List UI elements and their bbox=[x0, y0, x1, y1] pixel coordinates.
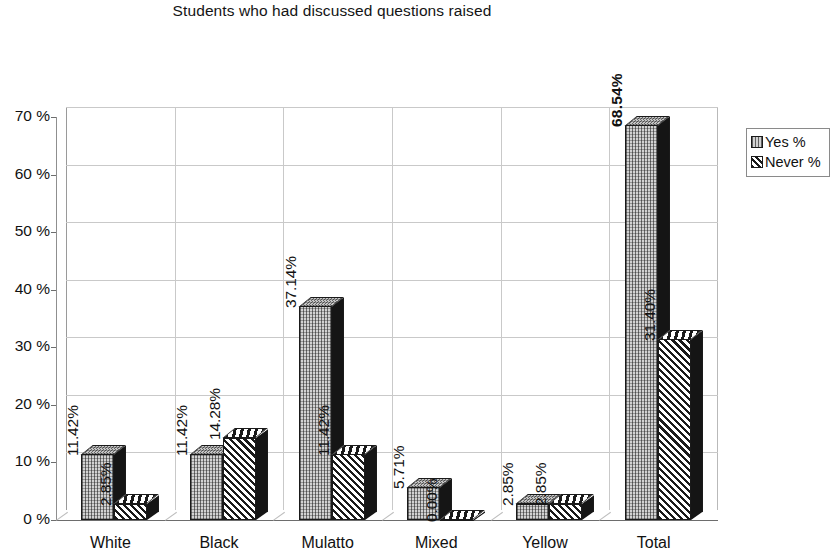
bar-value-label: 11.42% bbox=[64, 405, 82, 456]
gridline-group-separator bbox=[283, 107, 284, 510]
y-axis-tick-mark bbox=[51, 232, 56, 233]
bar-white-never bbox=[114, 504, 147, 520]
bar-black-yes bbox=[190, 454, 223, 520]
y-axis-tick-label: 10 % bbox=[2, 452, 50, 470]
y-axis-tick-mark bbox=[51, 175, 56, 176]
legend-item-label: Never % bbox=[765, 154, 821, 170]
stipple-light-swatch bbox=[751, 136, 763, 148]
y-axis-tick-mark bbox=[51, 462, 56, 463]
x-axis-category-label: Mixed bbox=[382, 534, 491, 552]
bar-front-face bbox=[516, 504, 549, 520]
bar-side-face bbox=[365, 446, 377, 520]
bar-yellow-yes bbox=[516, 504, 549, 520]
x-axis-category-label: Yellow bbox=[491, 534, 600, 552]
y-axis-tick-label: 60 % bbox=[2, 165, 50, 183]
gridline-group-separator bbox=[501, 107, 502, 510]
chart-title: Students who had discussed questions rai… bbox=[140, 2, 524, 20]
bar-front-face bbox=[114, 504, 147, 520]
bar-value-label: 31.40% bbox=[641, 289, 659, 341]
bar-value-label: 68.54% bbox=[608, 74, 626, 128]
bar-value-label: 14.28% bbox=[206, 388, 224, 440]
legend-item-never[interactable]: Never % bbox=[751, 152, 827, 172]
y-axis-tick-label: 70 % bbox=[2, 107, 50, 125]
bar-value-label: 11.42% bbox=[173, 405, 191, 456]
bar-yellow-never bbox=[549, 504, 582, 520]
y-axis-tick-mark bbox=[51, 290, 56, 291]
bar-value-label: 2.85% bbox=[532, 462, 550, 505]
bar-side-face bbox=[256, 429, 268, 520]
plot-area: 11.42%2.85%11.42%14.28%37.14%11.42%5.71%… bbox=[56, 107, 718, 521]
y-axis-tick-mark bbox=[51, 347, 56, 348]
x-axis-category-label: Total bbox=[599, 534, 708, 552]
y-axis-tick-label: 0 % bbox=[2, 510, 50, 528]
bar-front-face bbox=[223, 438, 256, 520]
x-axis-category-label: Mulatto bbox=[273, 534, 382, 552]
legend-item-yes[interactable]: Yes % bbox=[751, 132, 827, 152]
y-axis-tick-mark bbox=[51, 520, 56, 521]
gridline-group-separator bbox=[609, 107, 610, 510]
diagonal-hatch-swatch bbox=[751, 156, 763, 168]
bar-value-label: 5.71% bbox=[390, 446, 408, 489]
x-axis-category-label: Black bbox=[165, 534, 274, 552]
bar-front-face bbox=[549, 504, 582, 520]
y-axis-line bbox=[56, 117, 57, 521]
y-axis-tick-label: 20 % bbox=[2, 395, 50, 413]
chart-legend: Yes %Never % bbox=[746, 128, 830, 177]
bar-value-label: 11.42% bbox=[315, 405, 333, 456]
bar-value-label: 37.14% bbox=[282, 256, 300, 308]
bar-side-face bbox=[691, 331, 703, 520]
y-axis-tick-label: 30 % bbox=[2, 337, 50, 355]
y-axis-tick-label: 40 % bbox=[2, 280, 50, 298]
y-axis-tick-mark bbox=[51, 405, 56, 406]
bar-mulatto-never bbox=[332, 454, 365, 520]
x-axis-category-label: White bbox=[56, 534, 165, 552]
bar-black-never bbox=[223, 438, 256, 520]
bar-mixed-never bbox=[440, 520, 473, 521]
y-axis-tick-label: 50 % bbox=[2, 222, 50, 240]
bar-value-label: 2.85% bbox=[499, 462, 517, 505]
bar-value-label: 2.85% bbox=[97, 462, 115, 505]
bar-total-never bbox=[658, 339, 691, 520]
bar-front-face bbox=[190, 454, 223, 520]
bar-front-face bbox=[332, 454, 365, 520]
y-axis-tick-mark bbox=[51, 117, 56, 118]
bar-value-label: 0.00% bbox=[423, 479, 441, 522]
x-axis-line bbox=[56, 520, 718, 521]
bar-front-face bbox=[658, 339, 691, 520]
legend-item-label: Yes % bbox=[765, 134, 806, 150]
